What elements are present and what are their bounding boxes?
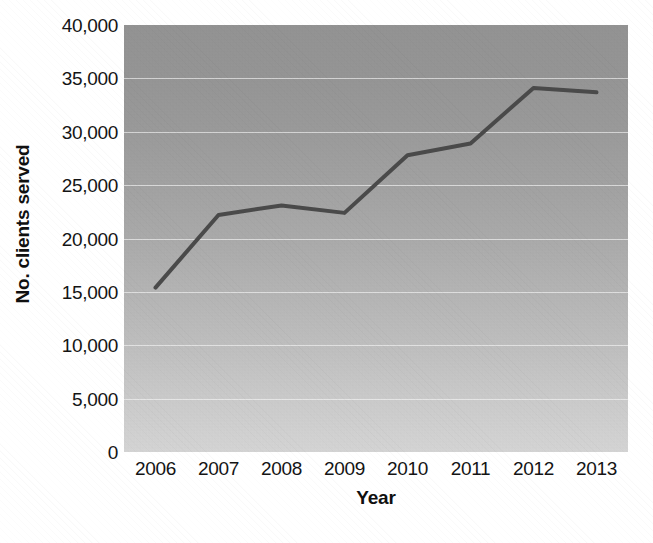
y-tick-label: 40,000 [22, 15, 118, 37]
plot-area [124, 25, 628, 452]
x-tick-label: 2013 [557, 458, 637, 480]
x-axis-tick-labels: 20062007200820092010201120122013 [124, 458, 628, 486]
y-tick-label: 15,000 [22, 282, 118, 304]
series-line-clients-served [124, 25, 628, 452]
y-tick-label: 10,000 [22, 335, 118, 357]
y-tick-label: 30,000 [22, 122, 118, 144]
y-tick-label: 0 [22, 442, 118, 464]
y-tick-label: 25,000 [22, 175, 118, 197]
line-chart-figure: No. clients served 40,000 35,000 30,000 … [0, 0, 653, 543]
y-tick-label: 35,000 [22, 68, 118, 90]
y-tick-label: 5,000 [22, 389, 118, 411]
y-tick-label: 20,000 [22, 229, 118, 251]
x-axis-title: Year [124, 487, 628, 509]
series-polyline [156, 88, 597, 288]
y-axis-tick-labels: 40,000 35,000 30,000 25,000 20,000 15,00… [22, 0, 118, 543]
